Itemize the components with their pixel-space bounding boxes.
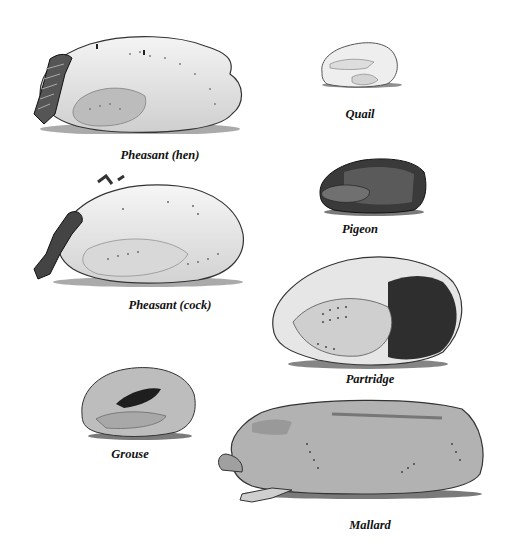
mallard-image xyxy=(212,394,492,508)
mallard-label: Mallard xyxy=(320,518,420,533)
grouse-image xyxy=(76,364,200,442)
quail-image xyxy=(312,32,404,90)
pigeon-image xyxy=(314,152,430,218)
pheasant-hen-image xyxy=(20,34,252,134)
pigeon-label: Pigeon xyxy=(320,222,400,237)
game-bird-illustration: Pheasant (hen) Pheasant (cock) xyxy=(0,0,513,553)
partridge-label: Partridge xyxy=(320,372,420,387)
grouse-label: Grouse xyxy=(90,447,170,462)
quail-label: Quail xyxy=(320,107,400,122)
pheasant-cock-image xyxy=(28,174,254,288)
pheasant-hen-label: Pheasant (hen) xyxy=(100,148,220,163)
partridge-image xyxy=(268,252,468,370)
pheasant-cock-label: Pheasant (cock) xyxy=(100,298,240,313)
